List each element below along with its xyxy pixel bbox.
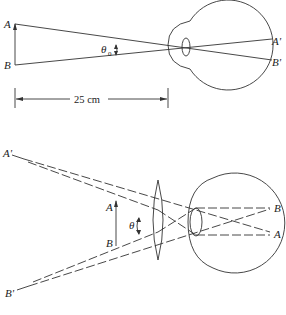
label-object-bottom: B xyxy=(4,59,11,71)
top-diagram: A B A' B' θ 0 25 cm xyxy=(3,0,282,108)
angle-arrow-icon xyxy=(136,217,141,235)
object-arrow xyxy=(13,23,17,65)
rays-from-virtual-bottom xyxy=(29,208,270,286)
rays xyxy=(15,24,272,65)
virtual-image-bottom-tick xyxy=(17,286,29,290)
magnifying-lens xyxy=(153,180,163,260)
label-image-top: A' xyxy=(271,35,282,47)
virtual-image-top-tick xyxy=(12,155,24,159)
label-angle: θ xyxy=(129,219,135,231)
eye-icon xyxy=(168,0,273,90)
eye-icon xyxy=(188,173,285,273)
label-angle: θ xyxy=(101,43,107,55)
label-virtual-image-bottom: B' xyxy=(5,287,15,299)
object-arrow xyxy=(114,200,118,246)
retina-rays xyxy=(196,208,270,235)
bottom-diagram: A' B' A B θ B A xyxy=(2,147,285,299)
label-object-top: A xyxy=(105,201,113,213)
label-object-top: A xyxy=(3,18,11,30)
label-retina-top: B xyxy=(274,202,281,214)
label-image-bottom: B' xyxy=(272,56,282,68)
optics-diagram: A B A' B' θ 0 25 cm xyxy=(0,0,286,315)
rays-from-virtual-top xyxy=(24,159,270,235)
label-angle-subscript: 0 xyxy=(108,50,112,58)
label-object-bottom: B xyxy=(106,237,113,249)
label-retina-bottom: A xyxy=(273,228,281,240)
label-virtual-image-top: A' xyxy=(2,147,13,159)
label-distance: 25 cm xyxy=(74,94,100,105)
